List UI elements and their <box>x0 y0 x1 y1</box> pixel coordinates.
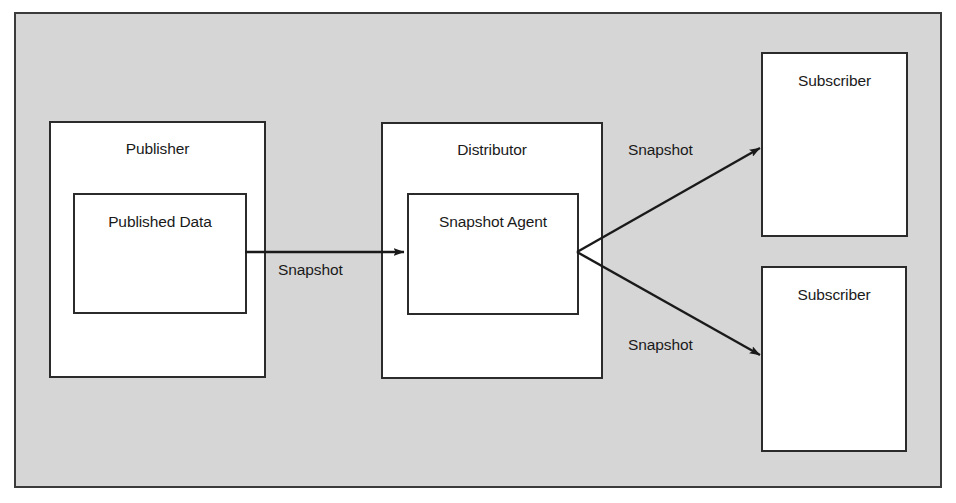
node-subscriber-bottom-label: Subscriber <box>763 286 905 304</box>
node-distributor-label: Distributor <box>383 141 601 159</box>
node-snapshot-agent[interactable]: Snapshot Agent <box>407 193 579 315</box>
node-published-data-label: Published Data <box>75 213 245 231</box>
node-subscriber-top-label: Subscriber <box>763 72 906 90</box>
node-publisher-label: Publisher <box>51 140 264 158</box>
edge-label-distributor-to-subscriber-bottom: Snapshot <box>628 336 693 354</box>
node-subscriber-bottom[interactable]: Subscriber <box>761 266 907 452</box>
edge-label-publisher-to-distributor: Snapshot <box>278 261 343 279</box>
node-publisher[interactable]: Publisher Published Data <box>49 121 266 378</box>
node-distributor[interactable]: Distributor Snapshot Agent <box>381 122 603 379</box>
node-subscriber-top[interactable]: Subscriber <box>761 52 908 237</box>
node-snapshot-agent-label: Snapshot Agent <box>409 213 577 231</box>
edge-label-distributor-to-subscriber-top: Snapshot <box>628 141 693 159</box>
node-published-data[interactable]: Published Data <box>73 193 247 314</box>
diagram-canvas: Publisher Published Data Distributor Sna… <box>0 0 956 503</box>
